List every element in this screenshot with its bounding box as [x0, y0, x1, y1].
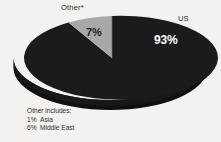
footnote-row-middle-east: 6%Middle East — [27, 124, 74, 133]
footnote-region-asia: Asia — [40, 116, 53, 123]
pie-label-other: Other* — [61, 4, 84, 12]
footnote-percent-asia: 1% — [27, 116, 40, 125]
footnote-percent-middle-east: 6% — [27, 124, 40, 133]
pie-value-us: 93% — [154, 34, 177, 46]
footnote-title: Other includes: — [27, 107, 74, 116]
chart-footnote: Other includes: 1%Asia 6%Middle East — [27, 107, 74, 133]
pie-value-other: 7% — [86, 27, 102, 38]
footnote-region-middle-east: Middle East — [40, 124, 74, 131]
footnote-row-asia: 1%Asia — [27, 116, 74, 125]
pie-slice-us — [24, 16, 218, 100]
pie-chart-figure: Other* US 7% 93% Other includes: 1%Asia … — [0, 0, 221, 142]
pie-label-us: US — [178, 15, 189, 23]
